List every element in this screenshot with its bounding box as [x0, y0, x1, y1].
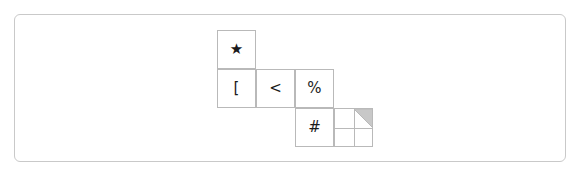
cell-bracket[interactable]: [ — [217, 69, 256, 108]
left-square-bracket-glyph: [ — [234, 81, 240, 96]
number-sign-glyph: # — [308, 120, 321, 135]
screenshot-root: ★[<%# — [0, 0, 578, 174]
cell-subdivided[interactable] — [334, 108, 373, 147]
cell-star[interactable]: ★ — [217, 30, 256, 69]
cell-less[interactable]: < — [256, 69, 295, 108]
star-glyph: ★ — [230, 42, 243, 57]
less-than-glyph: < — [269, 81, 282, 96]
percent-glyph: % — [307, 81, 321, 96]
shaded-triangle-icon — [354, 109, 374, 129]
cell-percent[interactable]: % — [295, 69, 334, 108]
cell-hash[interactable]: # — [295, 108, 334, 147]
